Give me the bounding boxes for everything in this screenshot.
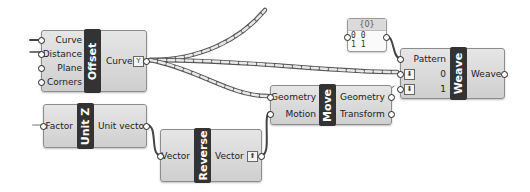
input-distance: Distance [43,49,82,59]
port-in-geometry[interactable] [267,94,274,101]
panel-row: 1 1 [348,40,386,49]
output-curve: Curve [106,56,133,66]
simplify-icon[interactable]: ⬆ [247,151,258,162]
wire-reverse-to-move [262,112,270,155]
input-factor: Factor [45,121,73,131]
port-in-panel[interactable] [344,34,351,41]
move-title[interactable]: Move [319,84,336,126]
wire-unitz-to-reverse [147,125,160,155]
panel-header: {0} [348,19,386,31]
input-motion: Motion [285,109,316,119]
weave-title[interactable]: Weave [450,47,467,100]
port-out-transform[interactable] [388,111,395,118]
output-geometry: Geometry [340,92,385,102]
port-out-vector[interactable] [258,153,265,160]
offset-node[interactable]: Offset Curve Distance Plane Corners Curv… [41,30,147,92]
input-pattern: Pattern [414,54,446,64]
port-in-plane[interactable] [38,65,45,72]
input-1: 1 [440,84,446,94]
weave-node[interactable]: Weave Pattern 0 1 ⬇ ⬇ Weave [400,48,505,99]
port-out-curve[interactable] [143,58,150,65]
flatten-icon[interactable]: ⬇ [404,69,415,80]
unit-z-title[interactable]: Unit Z [77,103,94,149]
port-out-weave[interactable] [501,71,508,78]
panel-row: 0 0 [348,31,386,40]
input-corners: Corners [47,77,82,87]
port-in-curve[interactable] [38,37,45,44]
data-panel[interactable]: {0} 0 0 1 1 [347,18,387,52]
reverse-node[interactable]: Reverse Vector Vector ⬆ [160,129,262,182]
input-plane: Plane [57,63,82,73]
input-0: 0 [440,69,446,79]
output-transform: Transform [340,109,385,119]
port-in-distance[interactable] [38,51,45,58]
port-out-panel[interactable] [383,34,390,41]
output-vector: Vector [215,151,244,161]
output-unit-vector: Unit vector [98,121,148,131]
input-vector: Vector [161,151,190,161]
flatten-icon[interactable]: ⬇ [404,84,415,95]
offset-title[interactable]: Offset [84,29,101,93]
reverse-title[interactable]: Reverse [194,128,211,183]
port-out-geometry[interactable] [388,94,395,101]
unit-z-node[interactable]: Unit Z Factor Unit vector [43,104,147,148]
port-in-motion[interactable] [267,111,274,118]
port-in-corners[interactable] [38,79,45,86]
port-in-1[interactable] [397,86,404,93]
port-in-factor[interactable] [40,123,47,130]
port-in-0[interactable] [397,71,404,78]
output-weave: Weave [471,69,501,79]
wire-offset-to-offcanvas [150,10,265,60]
port-in-vector[interactable] [157,153,164,160]
input-geometry: Geometry [271,92,316,102]
input-curve: Curve [55,35,82,45]
port-out-unit-vector[interactable] [143,123,150,130]
move-node[interactable]: Move Geometry Motion Geometry Transform [270,85,392,125]
port-in-pattern[interactable] [397,56,404,63]
